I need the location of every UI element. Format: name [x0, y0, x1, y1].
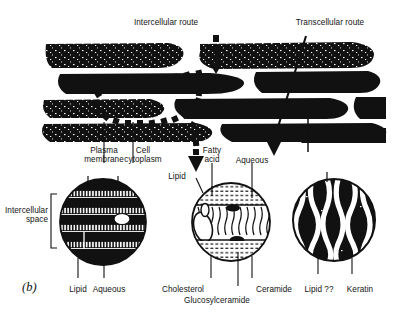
panel-id-label: (b) — [22, 280, 37, 295]
keratin-label: Keratin — [336, 285, 384, 294]
aqueous-upper-label: Aqueous — [226, 156, 278, 165]
lipid-right-label: Lipid ?? — [298, 285, 340, 294]
figure-canvas: Intercellular route Transcellular route … — [0, 0, 394, 312]
ceramide-label: Ceramide — [246, 285, 302, 294]
intercellular-space-label: Intercellular space — [0, 206, 48, 225]
cell-cytoplasm-label: Cell cytoplasm — [110, 146, 176, 165]
cholesterol-label: Cholesterol — [152, 285, 214, 294]
intercellular-space-bracket — [51, 194, 57, 248]
aqueous-left-label: Aqueous — [82, 285, 136, 294]
lamellar-bilayer-inset — [58, 176, 150, 268]
intercellular-route-label: Intercellular route — [110, 18, 222, 27]
transcellular-route-label: Transcellular route — [272, 18, 388, 27]
keratin-filament-inset — [292, 172, 376, 274]
lipid-upper-label: Lipid — [162, 172, 192, 181]
glucosylceramide-label: Glucosylceramide — [170, 296, 264, 305]
